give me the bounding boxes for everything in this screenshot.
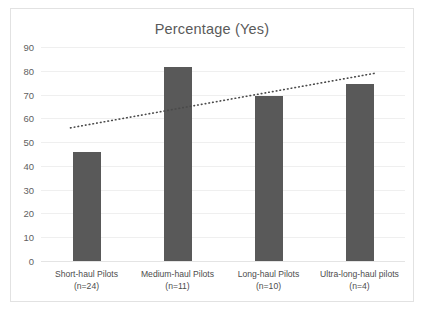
bar [346,84,374,261]
chart-title: Percentage (Yes) [11,21,413,37]
category-count: (n=24) [55,280,118,292]
trendline-path [71,73,376,128]
y-axis-tick-label: 80 [23,65,34,76]
plot-area: 0102030405060708090 Short-haul Pilots(n=… [41,47,405,261]
y-axis-tick-label: 90 [23,42,34,53]
category-count: (n=11) [141,280,214,292]
category-name: Medium-haul Pilots [141,268,214,280]
y-axis-tick-label: 30 [23,184,34,195]
y-axis-tick-label: 70 [23,89,34,100]
category-name: Short-haul Pilots [55,268,118,280]
y-axis-tick-label: 10 [23,232,34,243]
gridline [41,261,405,262]
x-axis-tick-label: Long-haul Pilots(n=10) [238,268,300,292]
bar [255,96,283,261]
x-axis-tick-label: Short-haul Pilots(n=24) [55,268,118,292]
category-name: Ultra-long-haul pilots [320,268,399,280]
gridline [41,71,405,72]
category-count: (n=10) [238,280,300,292]
y-axis-tick-label: 40 [23,160,34,171]
y-axis-tick-label: 0 [29,256,34,267]
y-axis-tick-label: 20 [23,208,34,219]
gridline [41,47,405,48]
y-axis-tick-label: 50 [23,137,34,148]
chart-container: Percentage (Yes) 0102030405060708090 Sho… [10,8,414,302]
category-name: Long-haul Pilots [238,268,300,280]
x-axis-tick-label: Ultra-long-haul pilots(n=4) [320,268,399,292]
x-axis-tick-label: Medium-haul Pilots(n=11) [141,268,214,292]
category-count: (n=4) [320,280,399,292]
bar [73,152,101,261]
y-axis-tick-label: 60 [23,113,34,124]
bar [164,67,192,261]
